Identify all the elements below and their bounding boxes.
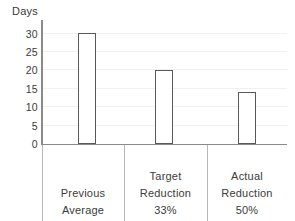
category-label-line3: 33%: [154, 202, 177, 219]
y-tick-30: 30: [14, 28, 38, 40]
category-label-line2: Average: [62, 202, 104, 219]
category-label-line3: 50%: [236, 202, 259, 219]
category-cell-actual-reduction: Actual Reduction 50%: [207, 145, 287, 221]
category-label-line2: Reduction: [221, 185, 272, 202]
y-tick-labels: 30 25 20 15 10 5 0: [8, 0, 38, 221]
y-tick-20: 20: [14, 64, 38, 76]
category-label-line2: Reduction: [140, 185, 191, 202]
y-tick-25: 25: [14, 46, 38, 58]
category-cell-target-reduction: Target Reduction 33%: [124, 145, 207, 221]
y-tick-5: 5: [14, 120, 38, 132]
y-tick-15: 15: [14, 83, 38, 95]
category-label-line1: Target: [150, 168, 182, 185]
category-label-line1: Previous: [61, 185, 105, 202]
category-label-line1: Actual: [231, 168, 263, 185]
bar-chart-figure: Days 30 25 20 15 10 5 0 Previous Average: [0, 0, 295, 221]
category-label-table: Previous Average Target Reduction 33% Ac…: [42, 145, 287, 221]
bar-actual-reduction: [238, 92, 256, 144]
category-cell-previous-average: Previous Average: [42, 145, 124, 221]
y-tick-0: 0: [14, 138, 38, 150]
bar-target-reduction: [155, 70, 173, 144]
y-tick-10: 10: [14, 101, 38, 113]
y-axis-line: [41, 20, 43, 145]
bar-previous-average: [78, 33, 96, 144]
plot-area: [42, 22, 287, 144]
